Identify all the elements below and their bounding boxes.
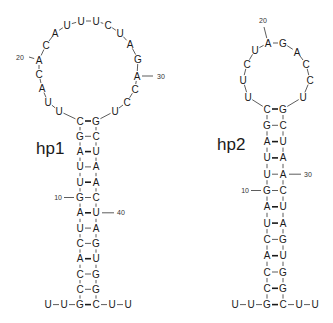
nucleotide: C (306, 75, 313, 86)
nucleotide: A (93, 223, 100, 234)
nucleotide: C (35, 69, 42, 80)
nucleotide: G (263, 299, 271, 310)
nucleotide: U (76, 223, 83, 234)
position-index-label: 30 (157, 73, 165, 80)
nucleotide: U (244, 92, 251, 103)
nucleotide: C (76, 238, 83, 249)
rna-hairpin-diagram: hp1CGGCAUUAUAGCAUUACGAUCGCGGCUUUUUUACACA… (0, 0, 333, 323)
backbone (287, 46, 293, 50)
nucleotide: A (280, 218, 287, 229)
nucleotide: U (44, 97, 51, 108)
nucleotide: U (76, 161, 83, 172)
nucleotide: C (302, 59, 309, 70)
nucleotide: G (279, 267, 287, 278)
nucleotide: U (279, 136, 286, 147)
nucleotide: C (92, 299, 99, 310)
nucleotide: G (92, 116, 100, 127)
nucleotide: U (279, 201, 286, 212)
nucleotide: A (93, 177, 100, 188)
nucleotide: C (263, 234, 270, 245)
hairpin-hp2: hp2CGGCAUUAUAGCAUUACGAUCGCGGCUUUUUUCUAGA… (217, 17, 319, 311)
backbone (59, 28, 63, 30)
nucleotide: C (76, 284, 83, 295)
nucleotide: A (77, 146, 84, 157)
nucleotide: A (264, 201, 271, 212)
nucleotide: U (263, 169, 270, 180)
backbone (287, 100, 298, 107)
nucleotide: U (92, 146, 99, 157)
index-tick (29, 57, 34, 59)
nucleotide: U (279, 250, 286, 261)
nucleotide: U (116, 28, 123, 39)
nucleotide: G (279, 38, 287, 49)
nucleotide: C (76, 269, 83, 280)
nucleotide: C (279, 185, 286, 196)
nucleotide: A (127, 39, 134, 50)
nucleotide: G (76, 299, 84, 310)
nucleotide: A (294, 47, 301, 58)
nucleotide: A (280, 152, 287, 163)
backbone (64, 113, 76, 119)
nucleotide: G (263, 120, 271, 131)
nucleotide: U (311, 299, 318, 310)
nucleotide: U (251, 45, 258, 56)
index-tick (264, 27, 267, 38)
backbone (252, 100, 263, 107)
nucleotide: U (60, 299, 67, 310)
nucleotide: A (36, 55, 43, 66)
nucleotide: G (279, 234, 287, 245)
nucleotide: C (92, 192, 99, 203)
position-index-label: 10 (241, 187, 249, 194)
nucleotide: G (263, 185, 271, 196)
position-index-label: 20 (16, 54, 24, 61)
nucleotide: U (63, 20, 70, 31)
position-index-label: 20 (259, 17, 267, 24)
nucleotide: U (239, 75, 246, 86)
nucleotide: A (77, 207, 84, 218)
position-index-label: 40 (117, 209, 125, 216)
nucleotide: C (42, 40, 49, 51)
hairpin-label: hp2 (217, 135, 245, 154)
nucleotide: A (264, 136, 271, 147)
nucleotide: C (279, 120, 286, 131)
nucleotide: G (279, 283, 287, 294)
nucleotide: C (123, 97, 130, 108)
nucleotide: U (76, 177, 83, 188)
backbone (72, 22, 76, 23)
position-index-label: 30 (304, 171, 312, 178)
nucleotide: C (263, 283, 270, 294)
backbone (112, 28, 116, 30)
hairpin-label: hp1 (36, 139, 64, 158)
nucleotide: C (279, 299, 286, 310)
nucleotide: U (44, 299, 51, 310)
nucleotide: U (247, 299, 254, 310)
nucleotide: C (263, 267, 270, 278)
nucleotide: A (134, 71, 141, 82)
nucleotide: G (92, 269, 100, 280)
nucleotide: U (124, 299, 131, 310)
nucleotide: A (52, 28, 59, 39)
nucleotide: C (131, 84, 138, 95)
nucleotide: U (295, 299, 302, 310)
nucleotide: G (92, 238, 100, 249)
position-index-label: 10 (54, 194, 62, 201)
nucleotide: C (104, 20, 111, 31)
hairpin-hp1: hp1CGGCAUUAUAGCAUUACGAUCGCGGCUUUUUUACACA… (16, 16, 165, 311)
nucleotide: U (231, 299, 238, 310)
nucleotide: G (76, 131, 84, 142)
nucleotide: U (299, 92, 306, 103)
nucleotide: G (92, 284, 100, 295)
nucleotide: A (280, 169, 287, 180)
nucleotide: U (263, 218, 270, 229)
nucleotide: G (279, 104, 287, 115)
nucleotide: U (111, 106, 118, 117)
backbone (100, 113, 110, 118)
nucleotide: C (92, 131, 99, 142)
nucleotide: A (39, 83, 46, 94)
nucleotide: C (76, 116, 83, 127)
nucleotide: U (263, 152, 270, 163)
nucleotide: C (263, 104, 270, 115)
nucleotide: C (243, 59, 250, 70)
nucleotide: U (92, 253, 99, 264)
nucleotide: A (77, 253, 84, 264)
